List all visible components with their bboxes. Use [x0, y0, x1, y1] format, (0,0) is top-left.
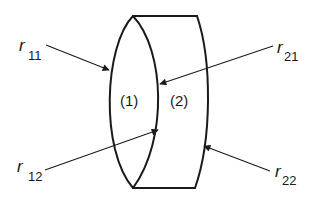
label-r22-symbol: r — [275, 162, 282, 181]
surface-r22 — [195, 16, 208, 188]
region-label-1: (1) — [120, 92, 138, 109]
label-r21-symbol: r — [277, 38, 284, 57]
arrow-r22 — [204, 146, 270, 171]
label-r12: r 12 — [17, 157, 42, 184]
label-r11: r 11 — [19, 36, 42, 63]
label-r22: r 22 — [275, 162, 296, 188]
label-r11-symbol: r — [19, 36, 26, 55]
arrow-r12 — [45, 130, 158, 170]
label-r11-subscript: 11 — [28, 48, 42, 63]
lens-diagram: (1) (2) r 11 r 21 r 12 r 22 — [0, 0, 315, 199]
label-r12-subscript: 12 — [28, 169, 42, 184]
label-r21-subscript: 21 — [284, 49, 298, 64]
region-label-2: (2) — [170, 92, 188, 109]
label-r12-symbol: r — [17, 157, 24, 176]
label-r21: r 21 — [277, 38, 298, 64]
label-r22-subscript: 22 — [282, 173, 296, 188]
arrow-r21 — [160, 46, 273, 84]
arrow-r11 — [46, 45, 109, 70]
